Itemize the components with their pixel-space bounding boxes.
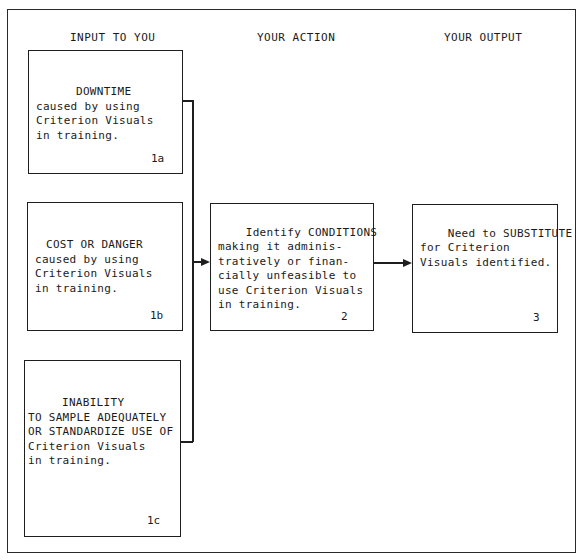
box-1c-inability: INABILITYTO SAMPLE ADEQUATELY OR STANDAR… xyxy=(24,360,181,537)
box-1a-number: 1a xyxy=(151,152,164,165)
box-1c-title: INABILITY xyxy=(28,396,173,411)
box-1b-title: COST OR DANGER xyxy=(35,238,153,253)
connector-vertical-bracket xyxy=(192,100,194,442)
box-2-identify-conditions: Identify CONDITIONS making it adminis- t… xyxy=(210,203,374,331)
box-1c-body: TO SAMPLE ADEQUATELY OR STANDARDIZE USE … xyxy=(28,411,173,468)
box-1b-number: 1b xyxy=(150,309,163,322)
arrow-to-box-2-head-icon xyxy=(201,258,210,266)
box-2-number: 2 xyxy=(341,310,348,323)
column-header-input: INPUT TO YOU xyxy=(70,31,155,44)
arrow-to-box-3-shaft xyxy=(374,262,404,264)
box-1a-text: DOWNTIMEcaused by using Criterion Visual… xyxy=(36,56,154,158)
box-1a-title: DOWNTIME xyxy=(36,85,154,100)
box-1b-text: COST OR DANGERcaused by using Criterion … xyxy=(35,209,153,311)
connector-1c-horizontal xyxy=(180,441,193,443)
arrow-to-box-3-head-icon xyxy=(403,259,412,267)
box-1b-cost-or-danger: COST OR DANGERcaused by using Criterion … xyxy=(27,202,183,331)
box-2-body: Identify CONDITIONS making it adminis- t… xyxy=(218,226,377,312)
box-1c-text: INABILITYTO SAMPLE ADEQUATELY OR STANDAR… xyxy=(28,367,173,483)
box-3-number: 3 xyxy=(533,311,540,324)
box-3-body: Need to SUBSTITUTE for Criterion Visuals… xyxy=(420,227,572,269)
column-header-action: YOUR ACTION xyxy=(257,31,335,44)
box-3-need-to-substitute: Need to SUBSTITUTE for Criterion Visuals… xyxy=(412,204,558,333)
box-3-text: Need to SUBSTITUTE for Criterion Visuals… xyxy=(420,212,572,285)
box-2-text: Identify CONDITIONS making it adminis- t… xyxy=(218,211,377,327)
box-1a-body: caused by using Criterion Visuals in tra… xyxy=(36,100,154,142)
box-1b-body: caused by using Criterion Visuals in tra… xyxy=(35,253,153,295)
box-1a-downtime: DOWNTIMEcaused by using Criterion Visual… xyxy=(28,50,183,174)
box-1c-number: 1c xyxy=(147,514,160,527)
column-header-output: YOUR OUTPUT xyxy=(444,31,522,44)
